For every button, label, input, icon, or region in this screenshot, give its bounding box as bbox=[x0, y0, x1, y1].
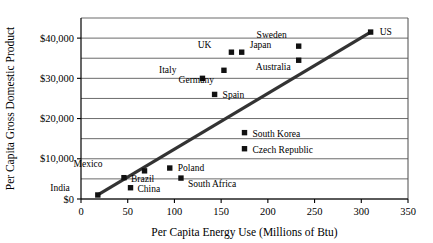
data-point-label: US bbox=[380, 27, 392, 37]
data-point-label: Czech Republic bbox=[253, 145, 313, 155]
data-point-marker bbox=[212, 92, 217, 97]
data-point-label: Brazil bbox=[131, 174, 155, 184]
data-point-label: Japan bbox=[250, 40, 272, 50]
data-point-label: Italy bbox=[159, 65, 177, 75]
data-point-marker bbox=[167, 165, 172, 170]
data-point-marker bbox=[221, 68, 226, 73]
y-tick-label: $10,000 bbox=[40, 153, 74, 164]
data-point-marker bbox=[229, 49, 234, 54]
data-point-label: China bbox=[138, 184, 161, 194]
data-point-label: South Africa bbox=[188, 179, 237, 189]
y-axis-ticks: $0$10,000$20,000$30,000$40,000 bbox=[40, 33, 81, 205]
data-point-marker bbox=[178, 175, 183, 180]
data-point-label: South Korea bbox=[253, 129, 302, 139]
data-point-marker bbox=[121, 175, 126, 180]
y-tick-label: $0 bbox=[64, 194, 75, 205]
data-point-label: Germany bbox=[179, 75, 215, 85]
data-point-label: Mexico bbox=[74, 159, 103, 169]
x-tick-label: 100 bbox=[167, 206, 183, 217]
trend-line bbox=[98, 32, 371, 195]
x-axis-title: Per Capita Energy Use (Millions of Btu) bbox=[151, 226, 337, 239]
y-tick-label: $30,000 bbox=[40, 73, 74, 84]
data-point-marker bbox=[368, 29, 373, 34]
data-point-label: Sweden bbox=[257, 30, 287, 40]
chart-canvas: $0$10,000$20,000$30,000$40,0000501001502… bbox=[0, 0, 433, 243]
data-point-marker bbox=[95, 192, 100, 197]
x-tick-label: 300 bbox=[353, 206, 369, 217]
x-tick-label: 200 bbox=[260, 206, 276, 217]
data-point-marker bbox=[142, 168, 147, 173]
data-point-marker bbox=[242, 130, 247, 135]
data-point-marker bbox=[242, 146, 247, 151]
data-point-marker bbox=[296, 43, 301, 48]
data-point-label: Poland bbox=[178, 163, 205, 173]
x-tick-label: 0 bbox=[78, 206, 83, 217]
data-point-label: India bbox=[50, 183, 70, 193]
y-tick-label: $40,000 bbox=[40, 33, 74, 44]
y-axis-title: Per Capita Gross Domestic Product bbox=[4, 26, 17, 190]
x-tick-label: 50 bbox=[122, 206, 133, 217]
data-point-label: Australia bbox=[256, 62, 292, 72]
x-axis-ticks: 050100150200250300350 bbox=[78, 199, 416, 217]
x-tick-label: 350 bbox=[400, 206, 416, 217]
data-point-marker bbox=[239, 49, 244, 54]
data-point-marker bbox=[128, 185, 133, 190]
scatter-chart: $0$10,000$20,000$30,000$40,0000501001502… bbox=[0, 0, 433, 243]
x-tick-label: 150 bbox=[213, 206, 229, 217]
data-point-label: UK bbox=[198, 40, 212, 50]
data-point-label: Spain bbox=[223, 90, 245, 100]
y-tick-label: $20,000 bbox=[40, 113, 74, 124]
data-point-marker bbox=[296, 58, 301, 63]
x-tick-label: 250 bbox=[307, 206, 323, 217]
data-points: IndiaChinaBrazilSouth AfricaMexicoPoland… bbox=[50, 27, 391, 198]
